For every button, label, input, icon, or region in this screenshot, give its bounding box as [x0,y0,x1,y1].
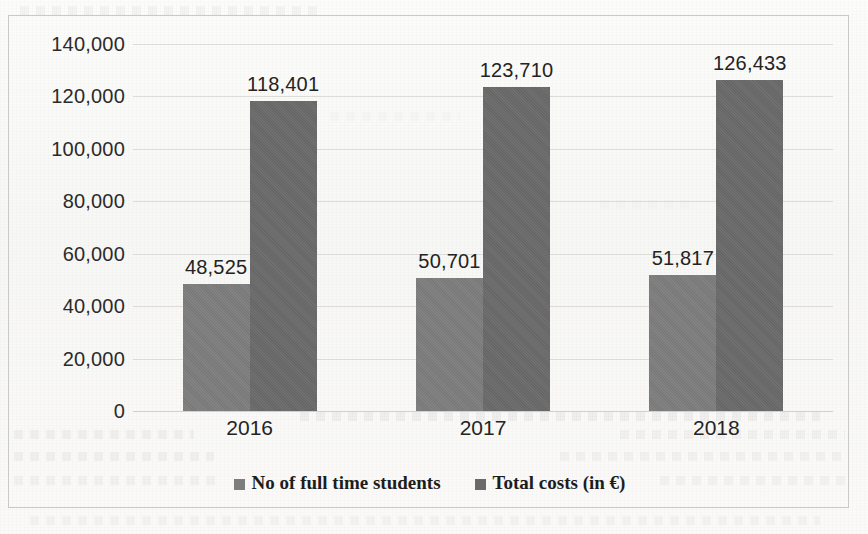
axis-baseline [133,411,833,412]
x-axis-tick-label-2018: 2018 [693,416,740,440]
y-axis-tick-label: 20,000 [15,347,125,370]
bar-students-2017[interactable]: 50,701 [416,278,483,411]
bar-costs-2017[interactable]: 123,710 [483,87,550,411]
y-axis-tick-label: 120,000 [15,85,125,108]
chart-legend: No of full time studentsTotal costs (in … [9,472,850,494]
legend-label: No of full time students [252,472,441,494]
legend-swatch-icon [475,479,486,490]
y-axis-tick-label: 80,000 [15,190,125,213]
x-axis-tick-label-2016: 2016 [226,416,273,440]
legend-item-students[interactable]: No of full time students [234,472,441,494]
bar-value-label: 51,817 [652,247,714,270]
plot-area: 48,525118,40150,701123,71051,817126,433 [133,44,833,411]
legend-item-costs[interactable]: Total costs (in €) [475,472,626,494]
y-axis-tick-label: 140,000 [15,33,125,56]
bar-value-label: 123,710 [480,59,554,82]
bar-value-label: 126,433 [713,52,787,75]
bleed-through-text [30,516,820,525]
legend-swatch-icon [234,479,245,490]
y-axis-tick-label: 40,000 [15,295,125,318]
bleed-through-text [20,6,320,15]
bar-value-label: 48,525 [185,256,247,279]
bar-students-2018[interactable]: 51,817 [649,275,716,411]
bar-costs-2016[interactable]: 118,401 [250,101,317,411]
bar-value-label: 118,401 [247,73,319,96]
chart-frame: 020,00040,00060,00080,000100,000120,0001… [8,15,849,508]
y-axis-tick-label: 60,000 [15,242,125,265]
bar-group-2018: 51,817126,433 [649,44,783,411]
bar-value-label: 50,701 [418,250,480,273]
bar-group-2016: 48,525118,401 [183,44,317,411]
x-axis: 201620172018 [133,416,833,450]
y-axis-tick-label: 0 [15,400,125,423]
y-axis-tick-label: 100,000 [15,137,125,160]
bar-costs-2018[interactable]: 126,433 [716,80,783,411]
bar-group-2017: 50,701123,710 [416,44,550,411]
y-axis: 020,00040,00060,00080,000100,000120,0001… [9,44,125,411]
x-axis-tick-label-2017: 2017 [460,416,507,440]
bar-students-2016[interactable]: 48,525 [183,284,250,411]
legend-label: Total costs (in €) [493,472,626,494]
